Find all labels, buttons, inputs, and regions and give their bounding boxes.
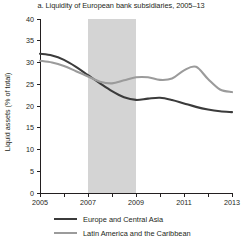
legend-label-europe-and-central-asia: Europe and Central Asia (83, 215, 163, 224)
chart-plot-area: 0510152025303540 20052007200920112013 Li… (0, 10, 242, 210)
legend-item: Europe and Central Asia (0, 212, 242, 226)
y-tick-label: 20 (26, 102, 34, 111)
recession-shaded-band (88, 19, 136, 193)
x-tick-label: 2011 (176, 198, 191, 207)
x-tick-label: 2013 (224, 198, 240, 207)
legend-swatch-latin-america-and-the-caribbean (54, 232, 77, 234)
crisis-band (88, 19, 136, 193)
y-tick-label: 10 (26, 145, 34, 154)
legend-swatch-europe-and-central-asia (54, 218, 77, 220)
x-tick-label: 2005 (32, 198, 48, 207)
legend-item: Latin America and the Caribbean (0, 226, 242, 240)
y-tick-label: 5 (30, 167, 34, 176)
y-axis: 0510152025303540 (26, 15, 40, 198)
y-tick-label: 30 (26, 58, 34, 67)
legend-label-latin-america-and-the-caribbean: Latin America and the Caribbean (83, 229, 191, 238)
x-tick-label: 2007 (80, 198, 96, 207)
y-tick-label: 25 (26, 80, 34, 89)
y-tick-label: 15 (26, 123, 34, 132)
y-tick-label: 40 (26, 15, 34, 24)
chart-legend: Europe and Central Asia Latin America an… (0, 212, 242, 240)
chart-title: a. Liquidity of European bank subsidiari… (0, 1, 242, 10)
y-tick-label: 35 (26, 36, 34, 45)
x-tick-label: 2009 (128, 198, 144, 207)
chart-figure: a. Liquidity of European bank subsidiari… (0, 0, 242, 247)
y-axis-title: Liquid assets (% of total) (3, 73, 12, 152)
x-axis: 20052007200920112013 (32, 193, 240, 207)
y-tick-label: 0 (30, 189, 34, 198)
